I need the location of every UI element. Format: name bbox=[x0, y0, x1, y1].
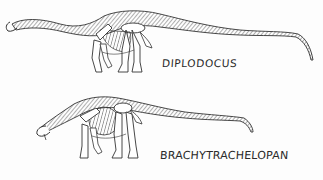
diplodocus-skeleton-icon bbox=[6, 11, 313, 72]
brachytrachelopan-label: BRACHYTRACHELOPAN bbox=[160, 149, 289, 162]
diplodocus-label: DIPLODOCUS bbox=[162, 57, 238, 69]
illustration-canvas: DIPLODOCUS BRACHYTRACHELOPAN bbox=[0, 0, 323, 180]
